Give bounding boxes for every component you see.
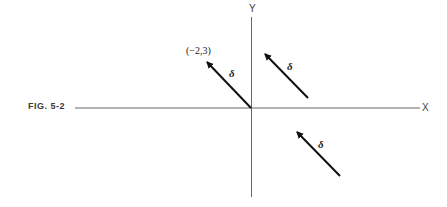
point-label: (−2,3) xyxy=(186,45,211,56)
x-axis-label: X xyxy=(422,102,429,113)
vector-label-2: δ xyxy=(287,60,293,72)
diagram-canvas xyxy=(0,0,447,207)
y-axis-label: Y xyxy=(249,3,256,14)
vector-label-3: δ xyxy=(318,138,324,150)
figure-label: FIG. 5-2 xyxy=(28,101,65,111)
vector-label-1: δ xyxy=(229,67,235,79)
